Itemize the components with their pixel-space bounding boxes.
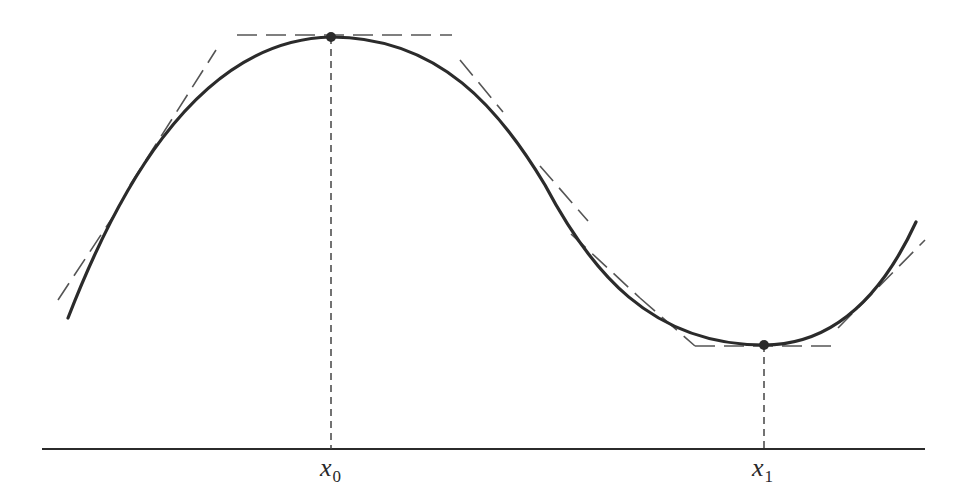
x0-label-subscript: 0 <box>333 467 342 486</box>
x0-label: x0 <box>320 455 341 481</box>
local-minimum-point <box>759 340 769 350</box>
x1-label: x1 <box>752 455 773 481</box>
tangent-line <box>540 166 588 221</box>
tangent-lines <box>58 35 925 346</box>
x1-label-subscript: 1 <box>765 467 774 486</box>
function-extrema-diagram <box>0 0 967 499</box>
local-maximum-point <box>326 32 336 42</box>
x0-label-base: x <box>320 453 332 482</box>
x1-label-base: x <box>752 453 764 482</box>
vertical-drop-lines <box>331 37 764 449</box>
